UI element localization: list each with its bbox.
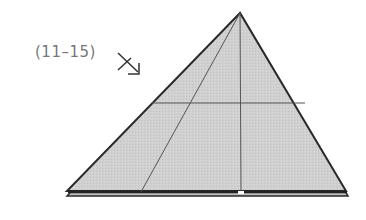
origami-diagram xyxy=(0,0,366,220)
gap-mark xyxy=(238,191,244,194)
paper-triangle xyxy=(67,13,346,191)
fold-arrow-down-right-icon xyxy=(118,53,139,74)
